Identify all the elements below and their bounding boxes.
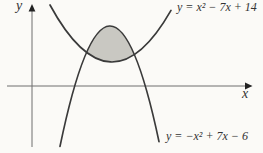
function-plot-figure: y x y = x² − 7x + 14 y = −x² + 7x − 6 [0,0,263,153]
upper-curve-equation-label: y = x² − 7x + 14 [177,1,257,14]
y-axis-label: y [16,0,22,13]
x-axis-label: x [242,86,248,101]
y-axis-arrowhead-icon [29,4,36,12]
lower-curve-equation-label: y = −x² + 7x − 6 [166,130,248,143]
